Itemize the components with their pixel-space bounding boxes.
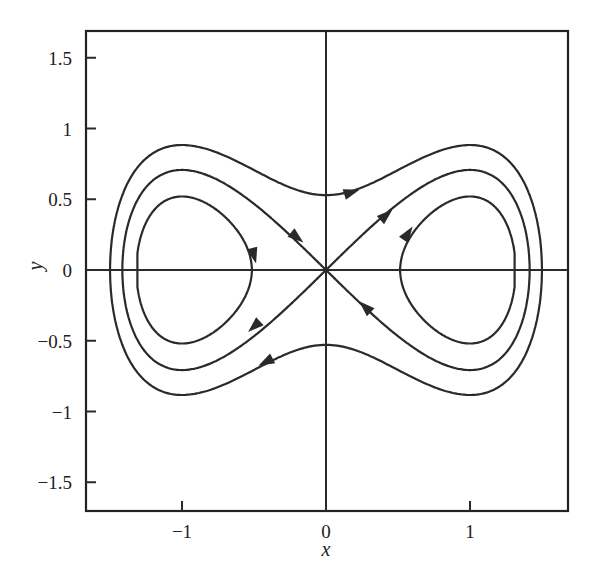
- arrow-icon: [377, 210, 393, 225]
- direction-arrows: [247, 189, 413, 365]
- y-tick-label: 1.5: [48, 48, 72, 69]
- x-tick-label: 1: [465, 521, 475, 542]
- y-tick-label: −1: [52, 402, 72, 423]
- x-tick-label: −1: [172, 521, 192, 542]
- y-axis-title: y: [24, 261, 47, 272]
- y-tick-label: −1.5: [38, 472, 72, 493]
- arrow-icon: [258, 353, 275, 365]
- y-tick-label: 0: [63, 260, 73, 281]
- x-axis-title: x: [321, 538, 331, 560]
- y-tick-label: 0.5: [48, 189, 72, 210]
- axis-ticks: −101−1.5−1−0.500.511.5: [38, 48, 475, 542]
- arrow-icon: [343, 189, 360, 200]
- phase-portrait-plot: −101−1.5−1−0.500.511.5 x y: [0, 0, 595, 583]
- y-tick-label: 1: [63, 119, 73, 140]
- y-tick-label: −0.5: [38, 331, 72, 352]
